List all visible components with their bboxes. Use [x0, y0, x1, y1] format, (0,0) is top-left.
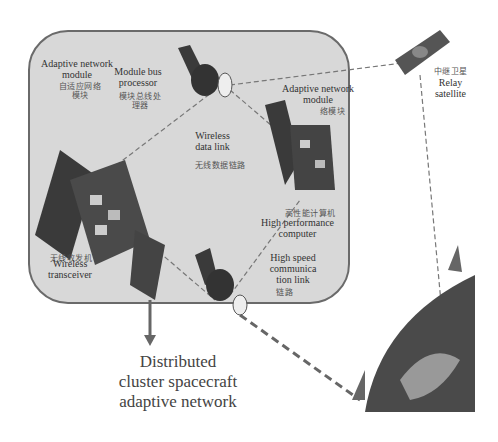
- caption: Distributed cluster spacecraft adaptive …: [78, 352, 278, 412]
- link-top-relay: [230, 62, 410, 85]
- label-cn-anm-right: 络模块: [315, 107, 350, 116]
- label-cn-mbp: 模块总线处 理器: [110, 92, 170, 110]
- top-spacecraft-icon: [178, 45, 232, 97]
- label-high-performance-computer: High performance computer: [250, 217, 345, 239]
- label-cn-relay: 中继卫星: [428, 67, 473, 76]
- label-cn-anm-left: 自适应网络 模块: [55, 82, 105, 100]
- label-adaptive-network-module-right: Adaptive network module: [278, 83, 358, 105]
- label-module-bus-processor: Module bus processor: [108, 66, 168, 88]
- label-cn-hsl: 链路: [262, 288, 307, 297]
- label-wireless-transceiver: Wireless transceiver: [40, 258, 100, 280]
- label-high-speed-link: High speed communica tion link: [258, 252, 328, 285]
- label-cn-wdl: 无线数据链路: [190, 161, 250, 170]
- label-relay-satellite: Relay satellite: [428, 77, 473, 99]
- label-wireless-data-link: Wireless data link: [185, 130, 240, 152]
- bottom-spacecraft-icon: [195, 248, 247, 315]
